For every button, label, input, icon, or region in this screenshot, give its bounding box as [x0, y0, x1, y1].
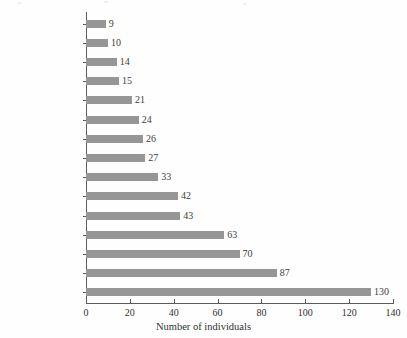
scan-artifact [18, 2, 21, 4]
bar-value-label: 87 [280, 263, 290, 282]
x-axis-tick-label: 140 [386, 306, 401, 319]
bar-china [86, 231, 224, 239]
bar-value-label: 130 [374, 282, 389, 301]
x-axis-tick [218, 299, 219, 304]
bar-value-label: 9 [109, 14, 114, 33]
bar-united-states [86, 288, 371, 296]
bar-row: Lebanon9 [86, 14, 393, 33]
x-axis-tick-label: 0 [84, 306, 89, 319]
bar-row: Bosnia10 [86, 33, 393, 52]
bar-value-label: 24 [142, 110, 152, 129]
plot-area: Lebanon9Bosnia10Gabon14Colombia15Portuga… [86, 14, 393, 302]
x-axis-tick-label: 80 [256, 306, 266, 319]
bar-lebanon [86, 20, 106, 28]
bar-nigeria [86, 135, 143, 143]
bar-row: India24 [86, 110, 393, 129]
bar-row: South Africa27 [86, 148, 393, 167]
bar-row: Russia87 [86, 264, 393, 283]
bar-germany [86, 250, 240, 258]
x-axis-tick [349, 299, 350, 304]
bar-gabon [86, 58, 117, 66]
bar-value-label: 14 [120, 52, 130, 71]
bar-row: United Kingdom43 [86, 206, 393, 225]
bar-bosnia [86, 39, 108, 47]
bar-row: Brazil42 [86, 187, 393, 206]
bar-row: United States130 [86, 283, 393, 302]
bar-portugal [86, 96, 132, 104]
bar-value-label: 21 [135, 90, 145, 109]
bar-value-label: 42 [181, 186, 191, 205]
bar-value-label: 15 [122, 71, 132, 90]
bar-value-label: 63 [227, 225, 237, 244]
bar-value-label: 27 [148, 148, 158, 167]
bar-row: France33 [86, 168, 393, 187]
x-axis-tick [130, 299, 131, 304]
bar-brazil [86, 192, 178, 200]
x-axis-line [86, 303, 394, 304]
x-axis-tick-label: 120 [342, 306, 357, 319]
bar-value-label: 26 [146, 129, 156, 148]
bar-value-label: 33 [161, 167, 171, 186]
bar-row: Germany70 [86, 244, 393, 263]
bar-value-label: 10 [111, 33, 121, 52]
bar-row: Colombia15 [86, 72, 393, 91]
bar-united-kingdom [86, 212, 180, 220]
x-axis-tick [174, 299, 175, 304]
bar-row: Portugal21 [86, 91, 393, 110]
x-axis-tick-label: 20 [125, 306, 135, 319]
scan-artifact [104, 1, 108, 3]
x-axis-tick [86, 299, 87, 304]
bar-row: Nigeria26 [86, 129, 393, 148]
bar-colombia [86, 77, 119, 85]
bar-south-africa [86, 154, 145, 162]
x-axis-tick-label: 100 [298, 306, 313, 319]
bar-value-label: 70 [243, 244, 253, 263]
bar-russia [86, 269, 277, 277]
scan-artifact [243, 3, 246, 5]
bar-france [86, 173, 158, 181]
x-axis-tick-label: 60 [213, 306, 223, 319]
bar-row: China63 [86, 225, 393, 244]
x-axis-title: Number of individuals [0, 321, 407, 332]
x-axis-tick [393, 299, 394, 304]
bar-row: Gabon14 [86, 52, 393, 71]
x-axis-tick [261, 299, 262, 304]
bar-india [86, 116, 139, 124]
bar-chart: Lebanon9Bosnia10Gabon14Colombia15Portuga… [0, 0, 407, 338]
x-axis-tick [305, 299, 306, 304]
bar-value-label: 43 [183, 206, 193, 225]
x-axis-tick-label: 40 [169, 306, 179, 319]
